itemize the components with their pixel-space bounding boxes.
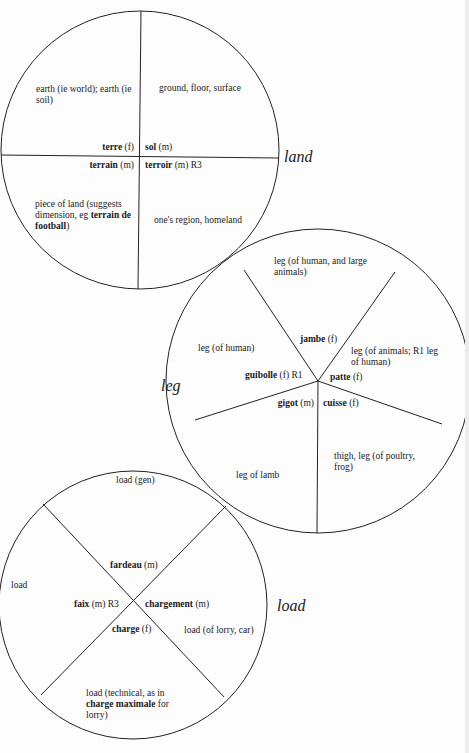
land-gloss-terroir: one's region, homeland — [154, 215, 242, 226]
page-edge — [465, 0, 469, 753]
leg-divider-1 — [244, 270, 318, 381]
load-gloss-charge: load (technical, as in charge maximale f… — [86, 688, 186, 721]
load-word-chargement: chargement (m) — [145, 599, 209, 610]
land-gloss-terrain: piece of land (suggests dimension, eg te… — [35, 199, 135, 232]
leg-word-patte: patte (f) — [330, 372, 362, 383]
leg-word-guibolle: guibolle (f) R1 — [245, 370, 303, 381]
load-gloss-chargement: load (of lorry, car) — [184, 625, 254, 636]
leg-word-gigot: gigot (m) — [230, 398, 314, 409]
load-word-fardeau: fardeau (m) — [110, 560, 158, 571]
land-word-sol: sol (m) — [145, 142, 172, 153]
land-word-terre: terre (f) — [60, 142, 134, 153]
leg-label: leg — [161, 377, 181, 395]
land-gloss-sol: ground, floor, surface — [159, 83, 241, 94]
leg-gloss-cuisse: thigh, leg (of poultry, frog) — [334, 451, 424, 473]
land-word-terroir: terroir (m) R3 — [145, 160, 202, 171]
load-word-charge: charge (f) — [112, 624, 151, 635]
land-vertical-divider — [138, 11, 141, 289]
leg-word-jambe: jambe (f) — [300, 334, 337, 345]
leg-gloss-patte: leg (of animals; R1 leg of human) — [351, 346, 443, 368]
load-gloss-faix: load — [11, 580, 27, 591]
land-word-terrain: terrain (m) — [60, 160, 134, 171]
leg-gloss-guibolle: leg (of human) — [198, 343, 254, 354]
leg-word-cuisse: cuisse (f) — [323, 398, 359, 409]
land-gloss-terre: earth (ie world); earth (ie soil) — [36, 84, 136, 106]
load-label: load — [277, 597, 305, 615]
leg-gloss-gigot: leg of lamb — [236, 470, 279, 481]
load-gloss-fardeau: load (gen) — [116, 475, 155, 486]
leg-divider-4 — [317, 381, 318, 533]
semantic-field-diagrams — [0, 0, 469, 753]
load-word-faix: faix (m) R3 — [74, 599, 119, 610]
land-horizontal-divider — [1, 155, 279, 158]
leg-gloss-jambe: leg (of human, and large animals) — [274, 256, 384, 278]
land-label: land — [284, 148, 312, 166]
